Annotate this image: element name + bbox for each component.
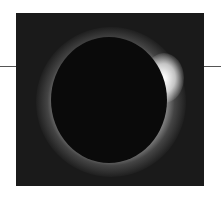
- horizontal-rule-right: [204, 66, 221, 67]
- eclipse-photo: [16, 13, 204, 186]
- horizontal-rule-left: [0, 66, 16, 67]
- moon-disk: [51, 37, 167, 163]
